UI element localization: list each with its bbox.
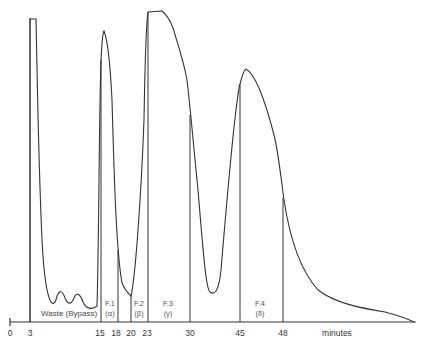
fraction-1-sub: (α) <box>105 309 115 318</box>
waste-bypass-label: Waste (Bypass) <box>41 309 97 318</box>
tick-30: 30 <box>185 328 195 338</box>
fraction-4-sub: (δ) <box>255 309 265 318</box>
tick-0: 0 <box>8 328 13 338</box>
fraction-labels: Waste (Bypass) F.1 (α) F.2 (β) F.3 (γ) F… <box>41 299 265 318</box>
elution-curve <box>30 11 414 322</box>
tick-18: 18 <box>111 328 121 338</box>
chromatogram-chart: 0 3 15 18 20 23 30 45 48 minutes Waste (… <box>0 0 428 347</box>
x-tick-labels: 0 3 15 18 20 23 30 45 48 minutes <box>8 328 352 338</box>
tick-3: 3 <box>28 328 33 338</box>
fraction-4-label: F.4 <box>255 299 265 308</box>
fraction-3-label: F.3 <box>163 299 173 308</box>
tick-23: 23 <box>142 328 152 338</box>
tick-15: 15 <box>95 328 105 338</box>
tick-48: 48 <box>278 328 288 338</box>
fraction-2-label: F.2 <box>134 299 144 308</box>
fraction-3-sub: (γ) <box>164 309 173 318</box>
fraction-markers <box>30 12 283 322</box>
x-axis-unit-label: minutes <box>322 328 352 338</box>
fraction-1-label: F.1 <box>105 299 115 308</box>
tick-20: 20 <box>126 328 136 338</box>
tick-45: 45 <box>235 328 245 338</box>
fraction-2-sub: (β) <box>134 309 144 318</box>
